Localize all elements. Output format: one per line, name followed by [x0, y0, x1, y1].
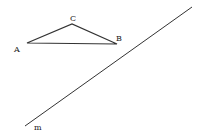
label-c: C	[70, 14, 76, 23]
label-a: A	[13, 45, 20, 54]
label-b: B	[116, 34, 122, 43]
line-m	[25, 7, 192, 126]
diagram-canvas: A B C m	[0, 0, 198, 138]
geometry-figure: A B C m	[0, 0, 198, 138]
triangle-abc	[27, 24, 117, 44]
label-m: m	[34, 123, 42, 132]
